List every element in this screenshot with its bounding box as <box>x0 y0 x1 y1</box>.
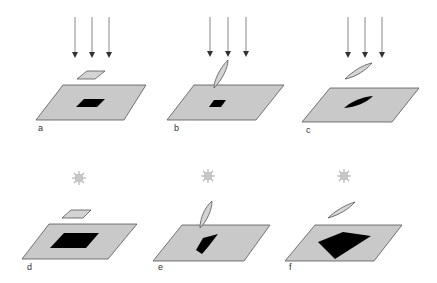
panel-d: d <box>22 171 137 272</box>
ground-plane <box>302 88 419 122</box>
panel-e: e <box>153 169 270 272</box>
panel-c: c <box>302 17 419 135</box>
panel-a: a <box>36 17 146 133</box>
parallel-light-arrows <box>207 17 249 57</box>
sun-icon <box>201 169 215 183</box>
floating-leaf <box>345 63 372 79</box>
horizontal-card <box>77 71 105 79</box>
panel-label-a: a <box>38 123 43 133</box>
parallel-light-arrows <box>72 17 112 58</box>
panel-f: f <box>285 169 402 272</box>
floating-leaf <box>328 202 355 218</box>
parallel-light-arrows <box>345 17 385 58</box>
panel-label-f: f <box>289 262 292 272</box>
tilted-leaf <box>200 201 212 228</box>
horizontal-card <box>62 210 91 218</box>
panel-label-d: d <box>27 262 32 272</box>
ground-plane <box>167 85 284 120</box>
panel-label-b: b <box>174 123 179 133</box>
panel-b: b <box>167 17 284 133</box>
sun-icon <box>337 169 351 183</box>
tilted-leaf <box>214 60 228 88</box>
panel-label-c: c <box>306 125 311 135</box>
ground-plane <box>153 225 270 261</box>
panel-label-e: e <box>158 262 163 272</box>
sun-icon <box>72 171 86 185</box>
shadow-projection-diagram: a b c <box>0 0 437 283</box>
